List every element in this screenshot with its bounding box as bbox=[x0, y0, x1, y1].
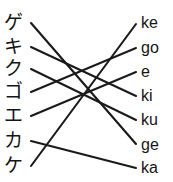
connection-line-0[interactable] bbox=[31, 23, 136, 144]
romaji-label-1[interactable]: go bbox=[139, 36, 173, 60]
kana-label-4[interactable]: エ bbox=[0, 103, 34, 127]
connection-line-3[interactable] bbox=[31, 48, 136, 92]
romaji-label-6[interactable]: ka bbox=[139, 156, 173, 180]
kana-label-1[interactable]: キ bbox=[0, 34, 34, 58]
kana-label-0[interactable]: ゲ bbox=[0, 10, 34, 34]
connection-line-6[interactable] bbox=[31, 24, 136, 166]
romaji-label-0[interactable]: ke bbox=[139, 11, 173, 35]
kana-label-6[interactable]: ケ bbox=[0, 153, 34, 177]
romaji-label-4[interactable]: ku bbox=[139, 108, 173, 132]
kana-label-5[interactable]: カ bbox=[0, 128, 34, 152]
connection-line-1[interactable] bbox=[31, 47, 136, 96]
matching-exercise: ゲ キ ク ゴ エ カ ケ ke go e ki ku ge ka bbox=[0, 0, 173, 182]
connection-line-5[interactable] bbox=[31, 141, 136, 168]
katakana-column: ゲ キ ク ゴ エ カ ケ bbox=[0, 0, 34, 182]
romaji-label-5[interactable]: ge bbox=[139, 133, 173, 157]
romaji-label-3[interactable]: ki bbox=[139, 84, 173, 108]
connection-line-4[interactable] bbox=[31, 72, 136, 116]
kana-label-3[interactable]: ゴ bbox=[0, 79, 34, 103]
romaji-label-2[interactable]: e bbox=[139, 60, 173, 84]
connection-line-2[interactable] bbox=[31, 69, 136, 120]
romaji-column: ke go e ki ku ge ka bbox=[139, 0, 173, 182]
kana-label-2[interactable]: ク bbox=[0, 56, 34, 80]
